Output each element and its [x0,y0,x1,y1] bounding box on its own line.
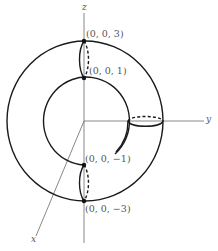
inner-circle-lower-right [116,121,128,152]
point-label-0-0-3: (0, 0, 3) [86,29,124,39]
point-label-0-0-1: (0, 0, 1) [89,66,127,76]
torus-diagram: z y x (0, 0, 3) (0, 0, 1) (0, 0, −1) (0,… [0,0,218,251]
y-axis-label: y [206,115,211,124]
bottom-cross-section-back [84,165,89,201]
top-cross-section-front [80,41,85,78]
z-axis-label: z [82,3,87,12]
bottom-cross-section-front [80,165,85,201]
x-axis [36,121,84,236]
point-label-0-0-neg3: (0, 0, −3) [85,204,131,214]
right-cross-section-back [128,117,163,122]
top-cross-section-back [84,41,89,78]
point-label-0-0-neg1: (0, 0, −1) [85,154,131,164]
right-cross-section-front [128,121,163,126]
point-0-0-1 [82,76,86,80]
x-axis-label: x [31,235,36,244]
point-0-0-3 [82,39,86,43]
